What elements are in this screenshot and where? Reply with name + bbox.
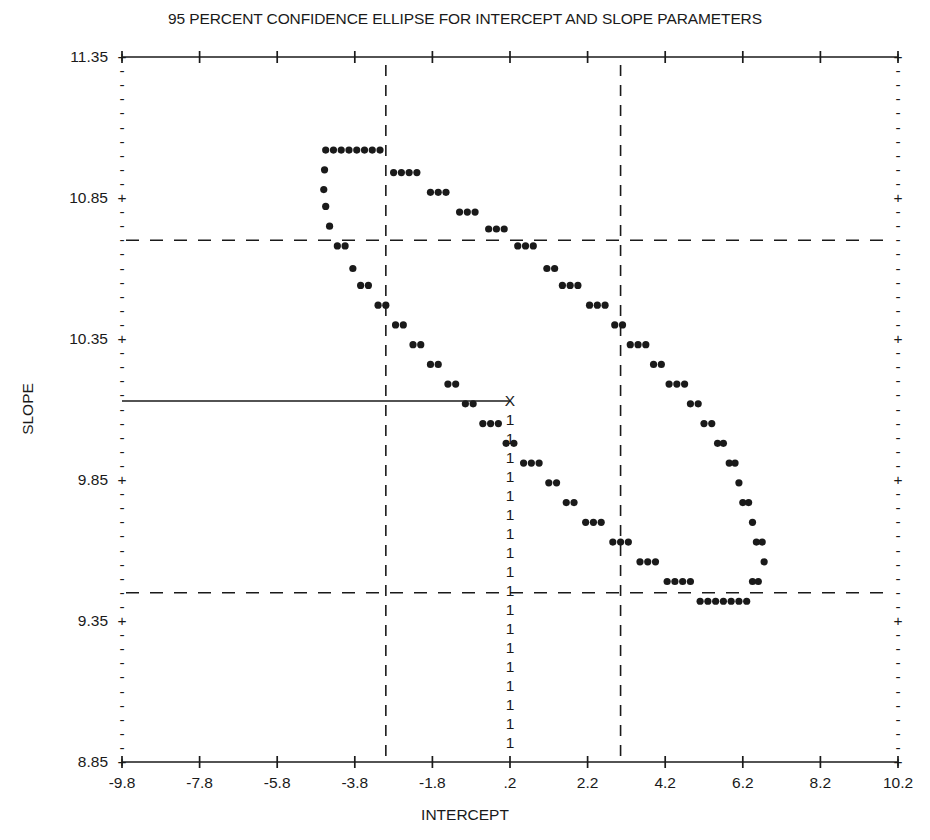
ellipse-point	[342, 242, 349, 249]
ellipse-point	[567, 282, 574, 289]
x-tick-label: -1.8	[419, 774, 446, 792]
ellipse-point	[712, 598, 719, 605]
ellipse-point	[464, 209, 471, 216]
ellipse-point	[390, 169, 397, 176]
y-tick-label: 11.35	[20, 48, 108, 66]
ellipse-point	[435, 189, 442, 196]
ellipse-point	[400, 321, 407, 328]
ellipse-point	[553, 479, 560, 486]
ellipse-point	[609, 538, 616, 545]
ellipse-point	[735, 598, 742, 605]
ellipse-point	[617, 538, 624, 545]
center-vertical-count-glyph: 1	[506, 677, 515, 695]
center-vertical-count-glyph: 1	[506, 487, 515, 505]
ellipse-point	[735, 479, 742, 486]
ellipse-point	[357, 282, 364, 289]
ellipse-point	[642, 341, 649, 348]
ellipse-point	[487, 420, 494, 427]
y-tick-label: 10.85	[20, 189, 108, 207]
ellipse-point	[582, 519, 589, 526]
ellipse-point	[435, 361, 442, 368]
ellipse-point	[334, 242, 341, 249]
ellipse-point	[522, 242, 529, 249]
ellipse-point	[545, 479, 552, 486]
ellipse-point	[671, 578, 678, 585]
x-tick-label: 10.2	[883, 774, 913, 792]
ellipse-point	[470, 400, 477, 407]
ellipse-point	[681, 381, 688, 388]
center-vertical-count-glyph: 1	[506, 696, 515, 714]
ellipse-point	[330, 146, 337, 153]
ellipse-point	[586, 302, 593, 309]
center-x-marker: X	[505, 392, 515, 410]
ellipse-point	[720, 598, 727, 605]
ellipse-point	[700, 420, 707, 427]
ellipse-point	[427, 361, 434, 368]
ellipse-point	[634, 341, 641, 348]
ellipse-point	[530, 242, 537, 249]
ellipse-point	[528, 459, 535, 466]
y-major-tick-glyph: +	[117, 753, 126, 771]
y-tick-label: 9.85	[20, 471, 108, 489]
ellipse-point	[536, 459, 543, 466]
ellipse-point	[495, 420, 502, 427]
ellipse-point	[392, 321, 399, 328]
x-tick-label: 4.2	[654, 774, 676, 792]
ellipse-point	[743, 598, 750, 605]
center-vertical-count-glyph: 1	[506, 639, 515, 657]
ellipse-point	[695, 400, 702, 407]
center-vertical-count-glyph: 1	[506, 449, 515, 467]
y-tick-label: 8.85	[20, 753, 108, 771]
ellipse-point	[611, 321, 618, 328]
center-vertical-count-glyph: 1	[506, 544, 515, 562]
ellipse-point	[369, 146, 376, 153]
y-tick-label: 10.35	[20, 330, 108, 348]
ellipse-point	[456, 209, 463, 216]
ellipse-point	[444, 381, 451, 388]
ellipse-point	[601, 302, 608, 309]
ellipse-point	[594, 302, 601, 309]
x-tick-label: 8.2	[810, 774, 832, 792]
center-vertical-count-glyph: 1	[506, 620, 515, 638]
ellipse-point-group	[320, 146, 768, 604]
center-vertical-count-glyph: 1	[506, 734, 515, 752]
plot-canvas	[0, 0, 930, 840]
ellipse-point	[625, 538, 632, 545]
x-tick-label: .2	[504, 774, 517, 792]
ellipse-point	[627, 341, 634, 348]
ellipse-point	[644, 558, 651, 565]
ellipse-point	[704, 598, 711, 605]
ellipse-point	[353, 146, 360, 153]
ellipse-point	[417, 341, 424, 348]
ellipse-point	[697, 598, 704, 605]
ellipse-point	[665, 381, 672, 388]
y-major-tick-glyph-right: +	[893, 753, 902, 771]
x-tick-label: -3.8	[341, 774, 368, 792]
ellipse-point	[382, 302, 389, 309]
ellipse-point	[570, 499, 577, 506]
center-vertical-count-glyph: 1	[506, 525, 515, 543]
ellipse-point	[374, 302, 381, 309]
ellipse-point	[413, 169, 420, 176]
center-vertical-count-glyph: 1	[506, 582, 515, 600]
ellipse-point	[501, 225, 508, 232]
ellipse-point	[493, 225, 500, 232]
ellipse-point	[514, 242, 521, 249]
ellipse-point	[619, 321, 626, 328]
ellipse-point	[462, 400, 469, 407]
ellipse-point	[652, 558, 659, 565]
center-vertical-count-glyph: 1	[506, 601, 515, 619]
ellipse-point	[320, 186, 327, 193]
ellipse-point	[720, 440, 727, 447]
ellipse-point	[574, 282, 581, 289]
ellipse-point	[728, 598, 735, 605]
y-tick-label: 9.35	[20, 612, 108, 630]
center-vertical-count-glyph: 1	[506, 430, 515, 448]
confidence-ellipse-chart: 95 PERCENT CONFIDENCE ELLIPSE FOR INTERC…	[0, 0, 930, 840]
ellipse-point	[376, 146, 383, 153]
ellipse-point	[485, 225, 492, 232]
ellipse-point	[365, 282, 372, 289]
ellipse-point	[427, 189, 434, 196]
ellipse-point	[590, 519, 597, 526]
ellipse-point	[731, 459, 738, 466]
